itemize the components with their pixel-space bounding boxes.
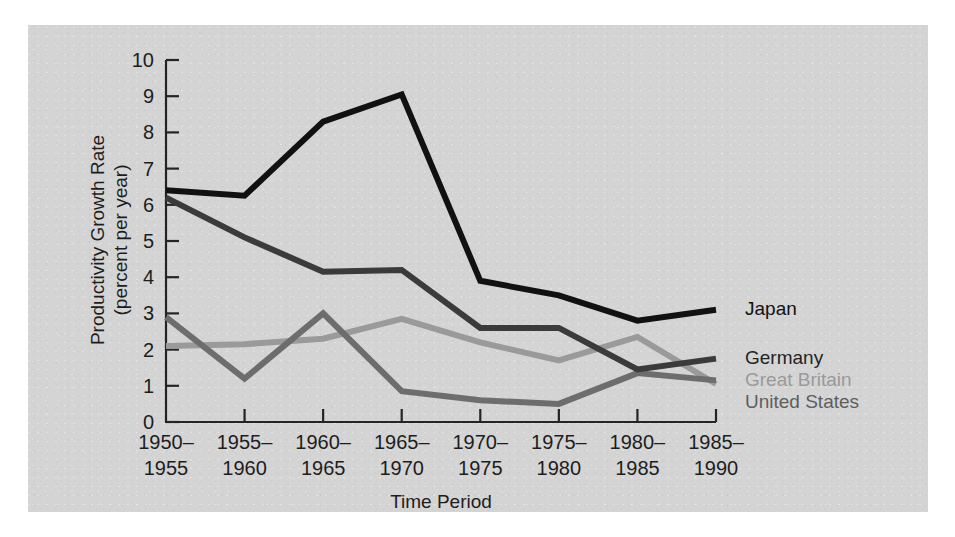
series-label-great-britain: Great Britain (745, 369, 852, 390)
y-axis-title: Productivity Growth Rate (percent per ye… (87, 135, 131, 345)
y-tick-label: 2 (143, 339, 154, 361)
x-axis-tick-labels: 1950–19551955–19601960–19651965–19701970… (138, 431, 744, 479)
x-tick-label: 1970– (452, 431, 508, 453)
figure-root: Productivity Growth Rate (percent per ye… (0, 0, 955, 537)
x-tick-label: 1965 (301, 457, 346, 479)
x-tick-label: 1980– (610, 431, 666, 453)
x-axis-title: Time Period (390, 491, 492, 512)
y-tick-label: 8 (143, 121, 154, 143)
series-label-united-states: United States (745, 391, 859, 412)
series-line-japan (166, 94, 716, 320)
series-end-labels: JapanGermanyGreat BritainUnited States (745, 298, 859, 412)
y-tick-label: 10 (132, 49, 154, 71)
series-label-germany: Germany (745, 347, 824, 368)
y-axis-tick-labels: 012345678910 (132, 49, 154, 433)
x-tick-label: 1975– (531, 431, 587, 453)
x-tick-label: 1990 (694, 457, 739, 479)
x-tick-label: 1955 (144, 457, 189, 479)
y-axis-title-line1: Productivity Growth Rate (87, 135, 108, 345)
y-axis-title-line2: (percent per year) (110, 164, 131, 315)
y-tick-label: 6 (143, 194, 154, 216)
x-tick-label: 1965– (374, 431, 430, 453)
x-tick-label: 1955– (217, 431, 273, 453)
y-axis-ticks (166, 60, 179, 422)
x-tick-label: 1985– (688, 431, 744, 453)
x-axis-ticks (245, 409, 716, 422)
series-label-japan: Japan (745, 298, 797, 319)
x-tick-label: 1980 (537, 457, 582, 479)
line-chart: Productivity Growth Rate (percent per ye… (0, 0, 955, 537)
y-tick-label: 9 (143, 85, 154, 107)
x-tick-label: 1960 (222, 457, 267, 479)
x-tick-label: 1985 (615, 457, 660, 479)
x-tick-label: 1960– (295, 431, 351, 453)
y-tick-label: 1 (143, 375, 154, 397)
series-line-united-states (166, 313, 716, 404)
y-tick-label: 5 (143, 230, 154, 252)
series-lines (166, 94, 716, 404)
y-tick-label: 3 (143, 302, 154, 324)
y-tick-label: 7 (143, 158, 154, 180)
x-tick-label: 1975 (458, 457, 503, 479)
y-tick-label: 4 (143, 266, 154, 288)
x-tick-label: 1970 (379, 457, 424, 479)
y-tick-label: 0 (143, 411, 154, 433)
x-tick-label: 1950– (138, 431, 194, 453)
